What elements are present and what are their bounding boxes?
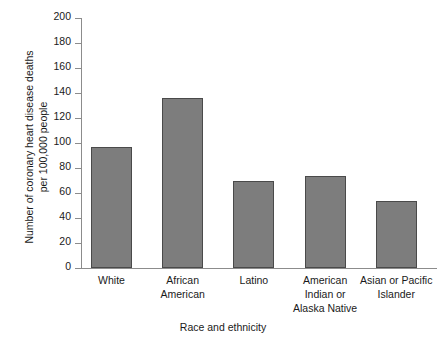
y-axis-tick: 20	[0, 243, 81, 244]
y-axis-tick: 180	[0, 43, 81, 44]
bar	[305, 176, 346, 269]
plot-area	[81, 18, 437, 268]
x-axis-category-label-line: Asian or Pacific	[358, 274, 435, 288]
x-axis-category-label-line: African	[144, 274, 221, 288]
y-axis-tick: 140	[0, 93, 81, 94]
y-axis-tick: 80	[0, 168, 81, 169]
y-axis-tick-label: 80	[59, 161, 71, 172]
y-axis-title-line-1: Number of coronary heart disease deaths	[23, 50, 37, 243]
x-axis-category-label-line: Alaska Native	[287, 302, 364, 316]
bar	[91, 147, 132, 268]
y-axis-tick-label: 0	[65, 261, 71, 272]
y-axis-tick: 60	[0, 193, 81, 194]
y-axis-tick: 160	[0, 68, 81, 69]
x-axis-category-label: Latino	[215, 274, 292, 288]
y-axis-tick-label: 180	[53, 36, 71, 47]
y-axis-tick-label: 140	[53, 86, 71, 97]
x-axis-category-label-line: Latino	[215, 274, 292, 288]
x-axis-category-label: White	[73, 274, 150, 288]
bar	[376, 201, 417, 269]
x-axis-category-label-line: American	[287, 274, 364, 288]
x-axis-category-label-line: American	[144, 288, 221, 302]
bar	[233, 181, 274, 269]
x-axis-category-label-line: Indian or	[287, 288, 364, 302]
bar	[162, 98, 203, 268]
x-axis-category-label-line: Islander	[358, 288, 435, 302]
y-axis-tick-label: 120	[53, 111, 71, 122]
y-axis-tick-label: 60	[59, 186, 71, 197]
y-axis-tick-label: 40	[59, 211, 71, 222]
x-axis-category-label: AfricanAmerican	[144, 274, 221, 302]
y-axis-tick: 0	[0, 268, 81, 269]
y-axis-tick: 40	[0, 218, 81, 219]
x-axis-category-label: Asian or PacificIslander	[358, 274, 435, 302]
y-axis-tick: 200	[0, 18, 81, 19]
y-axis-title-line-2: per 100,000 people	[37, 102, 51, 193]
x-axis-line	[81, 268, 437, 269]
y-axis-tick-label: 20	[59, 236, 71, 247]
y-axis-tick: 120	[0, 118, 81, 119]
x-axis-title: Race and ethnicity	[0, 321, 446, 333]
y-axis-tick-mark	[75, 268, 81, 269]
y-axis-tick: 100	[0, 143, 81, 144]
y-axis-tick-label: 100	[53, 136, 71, 147]
y-axis-tick-label: 160	[53, 61, 71, 72]
x-axis-category-label: AmericanIndian orAlaska Native	[287, 274, 364, 316]
bar-chart: Number of coronary heart disease deaths …	[0, 0, 446, 347]
y-axis-tick-label: 200	[53, 11, 71, 22]
x-axis-category-label-line: White	[73, 274, 150, 288]
